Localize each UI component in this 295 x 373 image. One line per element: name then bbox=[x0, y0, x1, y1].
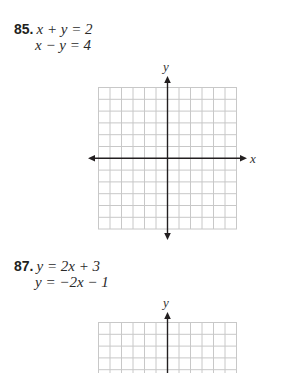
axes bbox=[164, 312, 171, 373]
y-axis-up-arrow-icon bbox=[164, 312, 171, 319]
coordinate-grid-87 bbox=[0, 0, 295, 373]
y-axis-label: y bbox=[163, 296, 169, 309]
